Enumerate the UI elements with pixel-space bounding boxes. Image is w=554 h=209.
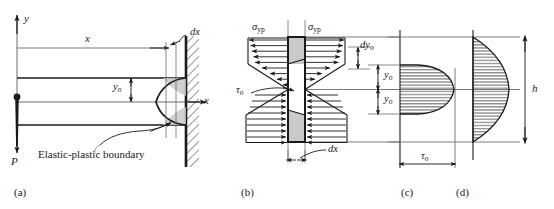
panel-c-y0-upper-subscript: o (389, 73, 393, 82)
panel-a-y0-subscript: o (118, 85, 122, 94)
panel-a-x-axis-label: x (204, 95, 209, 106)
panel-b-dy0-label: dyo (360, 40, 374, 52)
panel-d-height-label: h (532, 83, 538, 94)
panel-c-y0-upper-label: yo (384, 70, 392, 82)
panel-a-boundary-caption: Elastic-plastic boundary (38, 149, 145, 160)
sigma-subscript-left: yp (257, 25, 265, 34)
panel-b-sigma-yp-left-label: σyp (252, 22, 265, 34)
panel-a-graphics (14, 15, 206, 167)
panel-label-c: (c) (401, 186, 413, 198)
figure-elastic-plastic-beam: y x x dx yo P Elastic-plastic boundary σ… (0, 0, 554, 209)
panel-b-sigma-yp-right-label: σyp (308, 22, 321, 34)
panel-c-tau0-dimension-label: τo (421, 151, 429, 163)
panel-a-y0-label: yo (113, 82, 121, 94)
panel-c-tau-subscript: o (425, 154, 429, 163)
panel-a-load-P-label: P (11, 156, 18, 167)
panel-label-d: (d) (456, 186, 469, 198)
tau-subscript: o (240, 88, 244, 97)
panel-b-tau0-label: τo (236, 85, 244, 97)
panel-a-dx-label: dx (190, 27, 200, 38)
dy0-symbol: dy (360, 39, 370, 50)
panel-c-y0-lower-subscript: o (389, 97, 393, 106)
panel-b-graphics (246, 20, 400, 163)
sigma-subscript-right: yp (313, 25, 321, 34)
dy0-subscript: o (370, 43, 374, 52)
panel-d-graphics (473, 30, 525, 160)
panel-a-length-x-label: x (85, 33, 90, 44)
panel-b-dx-label: dx (328, 144, 338, 155)
panel-a-y-axis-label: y (24, 13, 29, 24)
panel-c-y0-lower-label: yo (384, 94, 392, 106)
figure-canvas (0, 0, 554, 209)
panel-label-b: (b) (241, 186, 254, 198)
panel-label-a: (a) (14, 186, 26, 198)
